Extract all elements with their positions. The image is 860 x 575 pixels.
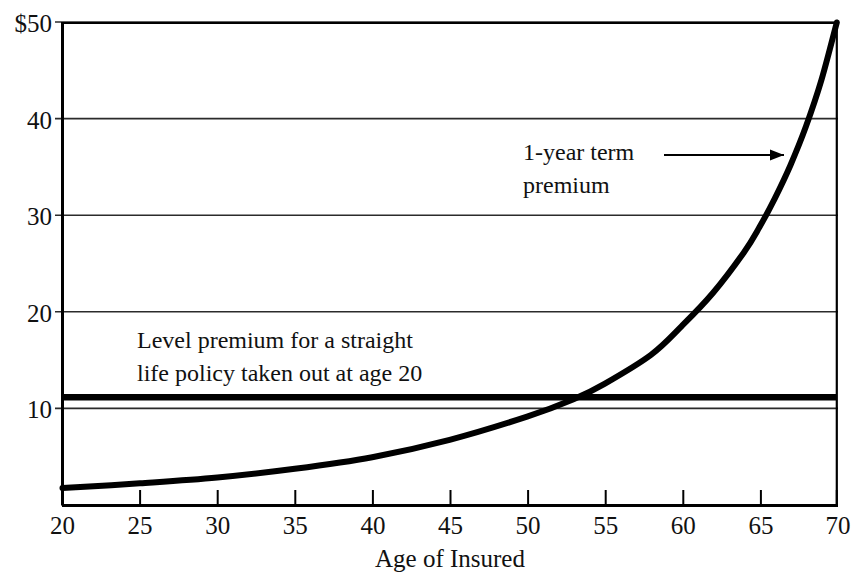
term-premium-annotation-line2: premium	[523, 172, 610, 198]
x-tick-label-55: 55	[593, 512, 618, 539]
x-tick-label-40: 40	[360, 512, 385, 539]
x-tick-label-20: 20	[50, 512, 75, 539]
y-tick-label-30: 30	[27, 203, 52, 230]
x-tick-label-25: 25	[128, 512, 153, 539]
x-tick-label-70: 70	[826, 512, 851, 539]
y-tick-label-20: 20	[27, 300, 52, 327]
x-tick-label-45: 45	[438, 512, 463, 539]
x-axis-title: Age of Insured	[375, 545, 525, 572]
y-tick-label-10: 10	[27, 396, 52, 423]
x-tick-label-65: 65	[748, 512, 773, 539]
term-premium-annotation-line1: 1-year term	[523, 139, 635, 165]
x-tick-label-60: 60	[671, 512, 696, 539]
level-premium-annotation-line2: life policy taken out at age 20	[137, 360, 422, 386]
premium-comparison-chart: $50 40 30 20 10 20 25 30 35 40 45 50 55 …	[0, 0, 860, 575]
y-tick-label-40: 40	[27, 107, 52, 134]
level-premium-annotation-line1: Level premium for a straight	[137, 327, 413, 353]
x-axis-tick-labels: 20 25 30 35 40 45 50 55 60 65 70	[50, 512, 851, 539]
x-tick-label-30: 30	[205, 512, 230, 539]
x-tick-label-50: 50	[516, 512, 541, 539]
chart-container: $50 40 30 20 10 20 25 30 35 40 45 50 55 …	[0, 0, 860, 575]
y-tick-label-50: $50	[15, 10, 53, 37]
x-tick-label-35: 35	[283, 512, 308, 539]
plot-background	[62, 22, 838, 505]
y-axis-tick-labels: $50 40 30 20 10	[15, 10, 53, 423]
